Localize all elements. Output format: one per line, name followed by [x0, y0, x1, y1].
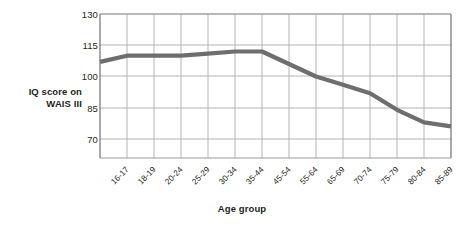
y-tick-label-100: 100 — [72, 71, 98, 82]
y-tick-label-70: 70 — [72, 134, 98, 145]
data-line-iq-score — [100, 52, 451, 127]
y-tick-label-115: 115 — [72, 40, 98, 51]
y-tick-label-85: 85 — [72, 103, 98, 114]
chart-figure: IQ score on WAIS III Age group — [0, 0, 470, 225]
gridlines — [100, 14, 451, 158]
axis-frame — [100, 14, 451, 158]
y-tick-label-130: 130 — [72, 9, 98, 20]
plot-area — [0, 0, 470, 225]
